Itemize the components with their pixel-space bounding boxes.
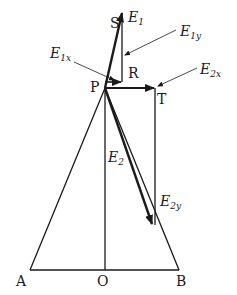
leader-E2x	[158, 68, 197, 86]
label-E2y: E2y	[159, 193, 182, 211]
label-R: R	[128, 65, 139, 81]
field-diagram: S R P T A O B E1 E1x E1y E2x E2 E2y	[0, 0, 237, 295]
label-E1: E1	[127, 9, 144, 27]
line-AP	[30, 88, 105, 270]
label-O: O	[97, 273, 108, 289]
label-P: P	[90, 79, 99, 95]
label-S: S	[110, 15, 120, 31]
leader-E1y	[125, 30, 176, 55]
label-E1x: E1x	[49, 45, 71, 63]
label-T: T	[157, 91, 167, 107]
label-B: B	[176, 273, 186, 289]
label-A: A	[15, 273, 27, 289]
label-E2x: E2x	[199, 61, 221, 79]
line-BP	[105, 88, 179, 270]
label-E2: E2	[107, 149, 124, 167]
label-E1y: E1y	[179, 23, 202, 41]
